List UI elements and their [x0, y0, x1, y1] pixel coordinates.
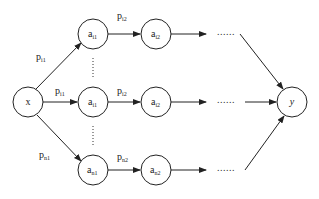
node-label-sub: i2: [155, 102, 160, 108]
node-y: y: [277, 87, 307, 117]
edge-label-bot-1: pn1: [39, 149, 50, 161]
edge-x-to-a-top-1: [36, 43, 81, 89]
edge-label-top-1: pi1: [36, 51, 46, 63]
node-a-bot-2: an2: [141, 155, 171, 185]
node-label-sub: n1: [91, 170, 97, 176]
node-y-label: y: [289, 96, 295, 107]
edge-ellipsis-top-to-y: [240, 34, 283, 89]
node-a-top-1: ai1: [78, 19, 108, 49]
edge-label-mid-1: pi1: [55, 85, 65, 97]
node-label-sub: i1: [92, 102, 97, 108]
node-label-sub: i2: [155, 34, 160, 40]
ellipsis-top: ......: [217, 26, 235, 37]
ellipsis-mid: ......: [217, 94, 235, 105]
node-a-bot-1: an1: [78, 155, 108, 185]
edge-label-mid-2: pi2: [117, 85, 127, 97]
node-a-mid-1: ai1: [78, 87, 108, 117]
path-diagram: ...... ...... ...... x ai1 ai2 ai1 ai2 a…: [0, 0, 319, 199]
edge-label-top-2: pi2: [117, 10, 127, 22]
node-label-sub: i1: [92, 34, 97, 40]
node-label-sub: n2: [154, 170, 160, 176]
node-a-top-2: ai2: [141, 19, 171, 49]
node-a-mid-2: ai2: [141, 87, 171, 117]
ellipsis-bot: ......: [217, 162, 235, 173]
node-x: x: [13, 87, 43, 117]
node-x-label: x: [26, 96, 31, 107]
edge-ellipsis-bot-to-y: [245, 116, 284, 170]
edge-label-bot-2: pn2: [117, 151, 128, 163]
